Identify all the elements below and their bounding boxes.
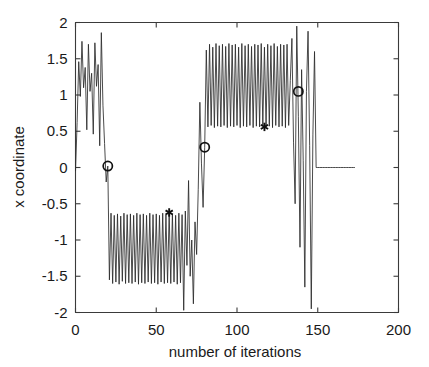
marker-asterisk [166,208,173,216]
y-tick-label: 0.5 [47,122,68,139]
y-tick-label: -1 [54,231,67,248]
y-tick-label: -2 [54,304,67,321]
y-tick-label: 1 [59,86,67,103]
figure-container: 050100150200-2-1.5-1-0.500.511.52 number… [0,0,429,367]
x-tick-label: 150 [305,321,330,338]
y-tick-label: -1.5 [42,267,68,284]
y-tick-label: 0 [59,159,67,176]
series-path [76,26,355,310]
y-tick-label: -0.5 [42,195,68,212]
y-axis-title: x coordinate [10,126,27,208]
chart-canvas: 050100150200-2-1.5-1-0.500.511.52 number… [0,0,429,367]
x-axis-title: number of iterations [169,343,302,360]
x-tick-label: 100 [224,321,249,338]
y-tick-label: 2 [59,14,67,31]
x-tick-label: 200 [386,321,411,338]
y-tick-label: 1.5 [47,50,68,67]
marker-asterisk [261,123,268,131]
x-tick-label: 50 [148,321,165,338]
data-series-group [76,26,355,310]
x-tick-label: 0 [71,321,79,338]
